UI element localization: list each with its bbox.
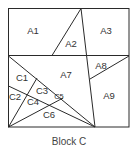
label-a8: A8 xyxy=(95,60,107,71)
diagram-caption: Block C xyxy=(52,136,86,147)
label-c3: C3 xyxy=(36,85,48,96)
label-c5: C5 xyxy=(54,92,64,101)
label-a7: A7 xyxy=(60,69,72,80)
block-c-diagram: A1 A2 A3 A7 A8 A9 C1 C2 C3 C4 C5 C6 Bloc… xyxy=(0,0,135,151)
label-a2: A2 xyxy=(65,38,77,49)
long-vertical-diagonal xyxy=(81,9,95,128)
label-c6: C6 xyxy=(43,109,55,120)
label-c2: C2 xyxy=(9,91,21,102)
label-a9: A9 xyxy=(103,90,115,101)
label-a3: A3 xyxy=(100,25,112,36)
label-a1: A1 xyxy=(27,25,39,36)
label-c4: C4 xyxy=(27,96,39,107)
label-c1: C1 xyxy=(16,72,28,83)
left-edge-diagonal xyxy=(9,86,96,127)
